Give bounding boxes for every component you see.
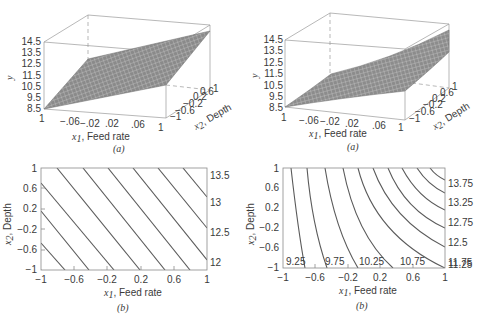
svg-text:−.02: −.02 xyxy=(320,116,340,127)
tick-marks xyxy=(41,188,174,270)
svg-text:10.5: 10.5 xyxy=(22,81,42,92)
contour-value-labels-bottom: 9.25 9.75 10.25 10.75 xyxy=(286,256,425,267)
svg-text:11.5: 11.5 xyxy=(22,70,41,81)
svg-text:1: 1 xyxy=(452,81,458,92)
x-axis-ticks: −1 −0.6 −0.2 0.2 0.6 1 xyxy=(277,272,448,283)
contour-plot-left: 1 0.6 0.2 −0.2 −0.6 −1 −1 −0.6 −0.2 0.2 … xyxy=(2,163,230,314)
contour-lines xyxy=(291,168,445,268)
svg-text:13.25: 13.25 xyxy=(448,197,473,208)
z-axis-ticks: 14.5 13.5 12.5 11.5 10.5 9.5 8.5 xyxy=(264,34,284,113)
svg-text:13.5: 13.5 xyxy=(264,45,284,56)
svg-text:0.6: 0.6 xyxy=(167,274,181,285)
svg-text:−1: −1 xyxy=(35,274,47,285)
svg-text:−0.2: −0.2 xyxy=(17,224,37,235)
svg-text:.06: .06 xyxy=(372,120,386,131)
contour-value-labels-right: 13.75 13.25 12.75 12.5 11.75 xyxy=(448,178,473,268)
caption: (b) xyxy=(356,300,368,312)
z-axis-label: y xyxy=(249,73,260,79)
svg-text:11.5: 11.5 xyxy=(264,68,283,79)
svg-text:9.75: 9.75 xyxy=(325,256,345,267)
svg-text:12.5: 12.5 xyxy=(210,227,230,238)
svg-text:−.06: −.06 xyxy=(60,116,80,127)
svg-text:10.5: 10.5 xyxy=(264,80,284,91)
svg-text:1: 1 xyxy=(398,122,404,133)
caption: (a) xyxy=(347,141,359,153)
svg-text:12: 12 xyxy=(210,257,222,268)
svg-text:1: 1 xyxy=(31,163,37,174)
svg-text:12.5: 12.5 xyxy=(448,237,468,248)
svg-text:10.75: 10.75 xyxy=(400,256,425,267)
svg-text:0.2: 0.2 xyxy=(373,272,387,283)
svg-text:9.5: 9.5 xyxy=(27,92,41,103)
svg-text:−0.2: −0.2 xyxy=(338,272,358,283)
svg-text:1: 1 xyxy=(442,272,448,283)
svg-text:0.6: 0.6 xyxy=(406,272,420,283)
contour-plot-right: 9.25 9.75 10.25 10.75 1 0.6 0.2 −0.2 −0.… xyxy=(245,163,473,312)
svg-text:0.6: 0.6 xyxy=(265,182,279,193)
contour-value-labels: 13.5 13 12.5 12 xyxy=(210,170,230,268)
svg-text:−0.2: −0.2 xyxy=(259,222,279,233)
svg-text:−0.6: −0.6 xyxy=(17,244,37,255)
svg-text:9.25: 9.25 xyxy=(286,256,306,267)
svg-text:14.5: 14.5 xyxy=(264,34,284,45)
svg-text:13.5: 13.5 xyxy=(22,47,42,58)
svg-text:1: 1 xyxy=(273,163,279,174)
svg-text:0.2: 0.2 xyxy=(265,202,279,213)
y-axis-label: x2, Depth xyxy=(2,203,15,246)
svg-text:−0.6: −0.6 xyxy=(305,272,325,283)
contour-lines xyxy=(18,168,207,270)
svg-text:1: 1 xyxy=(158,122,164,133)
x-axis-ticks: 1 −.06 −.02 .02 .06 1 xyxy=(39,113,164,133)
svg-text:.06: .06 xyxy=(131,119,145,130)
figure-canvas: 14.5 13.5 12.5 11.5 10.5 9.5 8.5 y 1 −.0… xyxy=(0,0,477,316)
caption: (b) xyxy=(117,302,129,314)
svg-text:0.2: 0.2 xyxy=(23,203,37,214)
svg-text:−0.6: −0.6 xyxy=(259,242,279,253)
svg-text:−.06: −.06 xyxy=(299,115,319,126)
svg-text:0.6: 0.6 xyxy=(23,183,37,194)
surface-plot-right: 14.5 13.5 12.5 11.5 10.5 9.5 8.5 y 1 −.0… xyxy=(249,13,472,153)
x-axis-label: x1, Feed rate xyxy=(308,128,367,141)
svg-text:14.5: 14.5 xyxy=(22,36,42,47)
z-axis-ticks: 14.5 13.5 12.5 11.5 10.5 9.5 8.5 xyxy=(22,36,42,114)
svg-text:12.5: 12.5 xyxy=(22,58,42,69)
surface-plot-left: 14.5 13.5 12.5 11.5 10.5 9.5 8.5 y 1 −.0… xyxy=(4,15,234,155)
svg-text:1: 1 xyxy=(213,83,219,94)
z-axis-label: y xyxy=(4,75,15,81)
svg-text:1: 1 xyxy=(281,112,287,123)
svg-text:−0.2: −0.2 xyxy=(97,274,117,285)
contour-value-label-last: 11.25 xyxy=(448,259,473,270)
svg-text:1: 1 xyxy=(204,274,210,285)
svg-text:13.5: 13.5 xyxy=(210,170,230,181)
svg-text:13.75: 13.75 xyxy=(448,178,473,189)
svg-text:9.5: 9.5 xyxy=(269,91,283,102)
svg-text:1: 1 xyxy=(39,113,45,124)
svg-text:−0.6: −0.6 xyxy=(64,274,84,285)
y-axis-label: x2, Depth xyxy=(245,203,258,246)
plot-frame xyxy=(283,168,445,268)
svg-text:.02: .02 xyxy=(105,118,119,129)
x-axis-label: x1, Feed rate xyxy=(338,285,397,298)
svg-text:12.5: 12.5 xyxy=(264,57,284,68)
svg-text:13: 13 xyxy=(210,197,222,208)
x-axis-ticks: −1 −0.6 −0.2 0.2 0.6 1 xyxy=(35,274,210,285)
svg-text:−.02: −.02 xyxy=(80,118,100,129)
caption: (a) xyxy=(113,143,125,155)
svg-text:−1: −1 xyxy=(277,272,289,283)
y-axis-ticks: 1 0.6 0.2 −0.2 −0.6 −1 xyxy=(17,163,37,275)
y-axis-ticks: 1 0.6 0.2 −0.2 −0.6 −1 xyxy=(259,163,279,273)
svg-text:0.2: 0.2 xyxy=(134,274,148,285)
svg-text:10.25: 10.25 xyxy=(359,256,384,267)
svg-text:12.75: 12.75 xyxy=(448,217,473,228)
x-axis-label: x1, Feed rate xyxy=(103,287,162,300)
